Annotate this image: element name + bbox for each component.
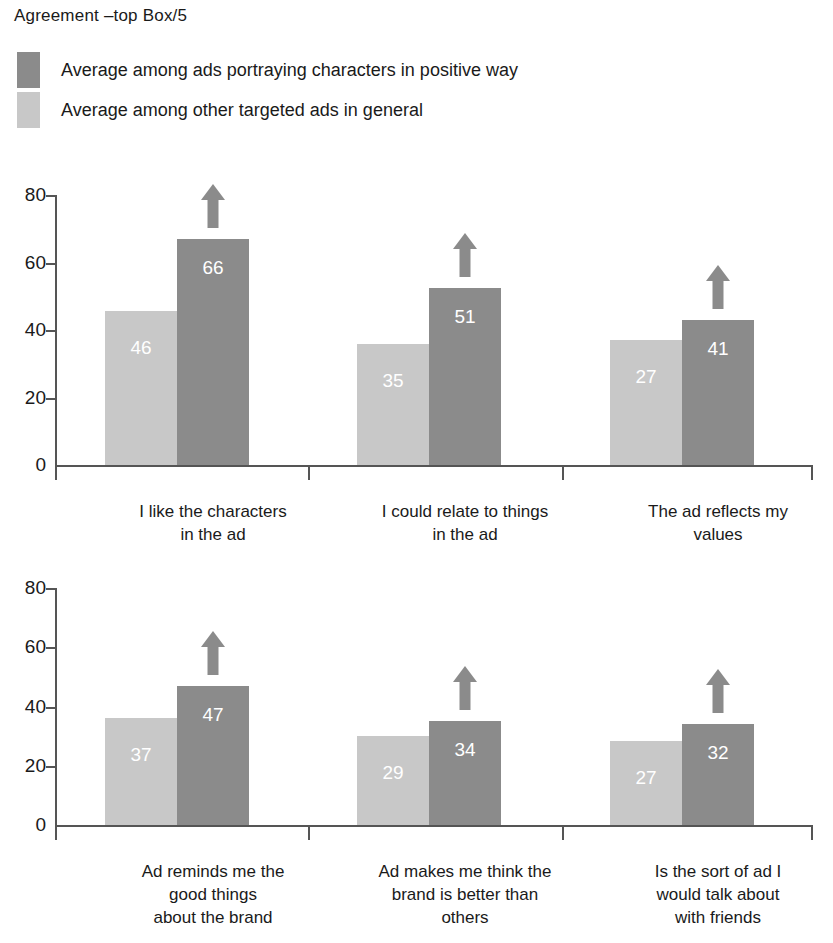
- legend-item-positive: Average among ads portraying characters …: [17, 50, 518, 90]
- bar-positive: 66: [177, 239, 249, 465]
- y-axis-line: [55, 195, 57, 465]
- legend-label-general: Average among other targeted ads in gene…: [61, 100, 423, 121]
- y-axis-tick-label: 0: [0, 815, 46, 834]
- x-axis-line: [55, 465, 813, 467]
- y-axis-tick-label: 80: [0, 185, 46, 204]
- bar-general: 46: [105, 311, 177, 465]
- bar-value-label: 32: [682, 742, 754, 764]
- bar-value-label: 37: [105, 744, 177, 766]
- bar-positive: 34: [429, 721, 501, 825]
- x-axis-category-label: The ad reflects my values: [592, 500, 833, 546]
- y-axis-tick-mark: [46, 195, 55, 197]
- y-axis-tick-mark: [46, 398, 55, 400]
- bar-value-label: 51: [429, 306, 501, 328]
- bar-positive: 51: [429, 288, 501, 465]
- page-title: Agreement –top Box/5: [14, 6, 187, 26]
- y-axis-tick-mark: [46, 647, 55, 649]
- y-axis-tick-label: 20: [0, 756, 46, 775]
- y-axis-tick-label: 60: [0, 253, 46, 272]
- bar-value-label: 46: [105, 337, 177, 359]
- bar-value-label: 27: [610, 767, 682, 789]
- y-axis-line: [55, 588, 57, 825]
- y-axis-tick-label: 40: [0, 697, 46, 716]
- x-axis-tick-mark: [562, 467, 564, 480]
- bar-value-label: 27: [610, 366, 682, 388]
- y-axis-tick-mark: [46, 766, 55, 768]
- y-axis-tick-label: 40: [0, 320, 46, 339]
- x-axis-tick-mark: [55, 827, 57, 840]
- legend-swatch-general: [17, 92, 40, 128]
- x-axis-tick-mark: [811, 827, 813, 840]
- y-axis-tick-label: 0: [0, 455, 46, 474]
- y-axis-tick-label: 60: [0, 637, 46, 656]
- bar-general: 27: [610, 741, 682, 825]
- bar-value-label: 34: [429, 739, 501, 761]
- bar-general: 35: [357, 344, 429, 466]
- x-axis-category-label: Ad reminds me the good things about the …: [87, 860, 339, 929]
- x-axis-line: [55, 825, 813, 827]
- x-axis-category-label: Is the sort of ad I would talk about wit…: [592, 860, 833, 929]
- up-arrow-icon: [452, 665, 478, 711]
- y-axis-tick-mark: [46, 588, 55, 590]
- y-axis-tick-mark: [46, 263, 55, 265]
- x-axis-tick-mark: [55, 467, 57, 480]
- legend-swatch-positive: [17, 52, 40, 88]
- chart-legend: Average among ads portraying characters …: [17, 50, 518, 130]
- bar-positive: 41: [682, 320, 754, 465]
- bar-value-label: 41: [682, 338, 754, 360]
- x-axis-category-label: I could relate to things in the ad: [339, 500, 591, 546]
- bar-positive: 47: [177, 686, 249, 825]
- bar-general: 29: [357, 736, 429, 825]
- legend-item-general: Average among other targeted ads in gene…: [17, 90, 518, 130]
- bar-general: 27: [610, 340, 682, 465]
- y-axis-tick-mark: [46, 707, 55, 709]
- bar-value-label: 47: [177, 704, 249, 726]
- bar-value-label: 66: [177, 257, 249, 279]
- up-arrow-icon: [452, 232, 478, 278]
- x-axis-category-label: Ad makes me think the brand is better th…: [339, 860, 591, 929]
- x-axis-tick-mark: [811, 467, 813, 480]
- y-axis-tick-label: 80: [0, 578, 46, 597]
- bar-general: 37: [105, 718, 177, 825]
- up-arrow-icon: [200, 183, 226, 229]
- y-axis-tick-label: 20: [0, 388, 46, 407]
- y-axis-tick-mark: [46, 330, 55, 332]
- bar-positive: 32: [682, 724, 754, 825]
- up-arrow-icon: [200, 630, 226, 676]
- x-axis-tick-mark: [308, 827, 310, 840]
- bar-value-label: 35: [357, 370, 429, 392]
- bar-value-label: 29: [357, 762, 429, 784]
- x-axis-tick-mark: [308, 467, 310, 480]
- up-arrow-icon: [705, 264, 731, 310]
- x-axis-tick-mark: [562, 827, 564, 840]
- x-axis-category-label: I like the characters in the ad: [87, 500, 339, 546]
- legend-label-positive: Average among ads portraying characters …: [61, 60, 518, 81]
- up-arrow-icon: [705, 668, 731, 714]
